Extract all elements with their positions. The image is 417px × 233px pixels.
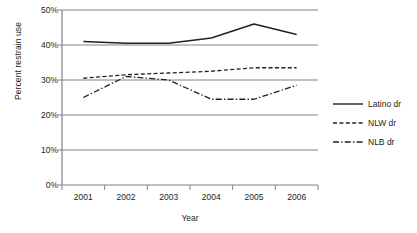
x-tick-label-2005: 2005 — [232, 192, 276, 202]
legend-item-nlb: NLB dr — [333, 132, 417, 151]
legend-label-latino: Latino dr — [363, 99, 401, 109]
series-line-nlw — [83, 68, 296, 79]
legend-label-nlw: NLW dr — [363, 118, 396, 128]
legend-label-nlb: NLB dr — [363, 137, 394, 147]
legend-line-solid-icon — [333, 99, 363, 109]
legend-line-dashdot-icon — [333, 137, 363, 147]
x-tick-label-2006: 2006 — [275, 192, 319, 202]
legend-item-latino: Latino dr — [333, 94, 417, 113]
chart-legend: Latino dr NLW dr NLB dr — [333, 94, 417, 151]
legend-line-dashed-icon — [333, 118, 363, 128]
x-axis-ticks — [62, 185, 318, 190]
x-tick-label-2002: 2002 — [104, 192, 148, 202]
x-tick-label-2001: 2001 — [61, 192, 105, 202]
x-axis-title: Year — [62, 213, 318, 223]
series-line-latino — [83, 24, 296, 43]
legend-item-nlw: NLW dr — [333, 113, 417, 132]
x-tick-label-2004: 2004 — [189, 192, 233, 202]
x-tick-label-2003: 2003 — [147, 192, 191, 202]
line-chart: Percent restrain use 50% 40% 30% 20% 10%… — [0, 0, 417, 233]
